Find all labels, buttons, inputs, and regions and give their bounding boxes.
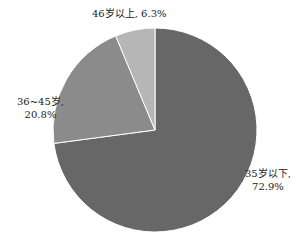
label-36-45-name: 36~45岁, [17,95,64,108]
label-36-45-value: 20.8% [17,108,64,121]
pie-slices [53,28,257,232]
label-36-45: 36~45岁, 20.8% [17,95,64,121]
pie-chart [0,0,305,248]
label-35-below-name: 35岁以下, [245,167,291,180]
label-46-above-text: 46岁以上, 6.3% [92,7,167,20]
label-46-above: 46岁以上, 6.3% [92,7,167,20]
label-35-below-value: 72.9% [245,180,291,193]
label-35-below: 35岁以下, 72.9% [245,167,291,193]
